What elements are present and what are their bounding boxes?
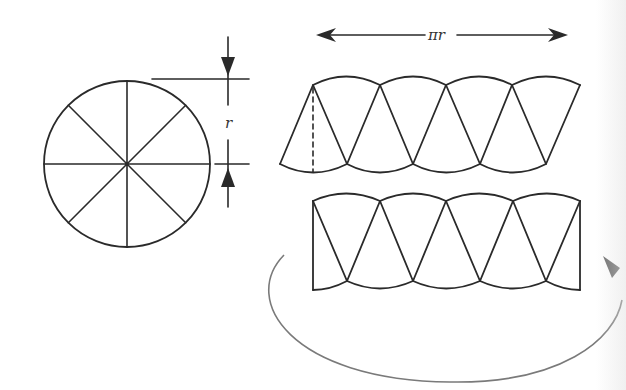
radius-label: r bbox=[225, 114, 233, 132]
circle-area-diagram: r πr bbox=[0, 0, 626, 390]
curved-arrow-icon bbox=[269, 255, 622, 382]
arrow-down-icon bbox=[221, 57, 235, 76]
radius-dimension: r bbox=[152, 37, 249, 207]
width-label: πr bbox=[427, 26, 446, 44]
page-edge-shadow bbox=[596, 0, 626, 390]
arrow-up-icon bbox=[221, 168, 235, 187]
sector-strip-bottom bbox=[313, 194, 580, 291]
width-dimension: πr bbox=[316, 26, 568, 44]
sector-strip-top bbox=[280, 77, 580, 173]
divided-circle bbox=[44, 81, 210, 247]
